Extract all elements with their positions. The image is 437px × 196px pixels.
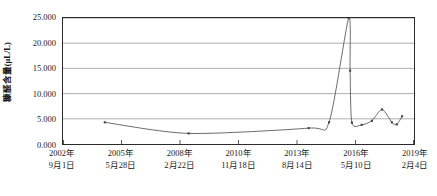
data-point-marker [381,108,383,110]
x-axis-tick-label: 2016年5月10日 [341,148,372,171]
x-axis-tick-label-year: 2008年 [164,148,195,160]
x-axis-tick-label-date: 5月10日 [341,160,372,172]
x-axis-tick-labels: 2002年9月1日2005年5月28日2008年2月22日2010年11月18日… [0,148,437,188]
data-point-marker [104,121,106,123]
x-axis-tick-label-year: 2005年 [105,148,136,160]
y-axis-tick-labels: 0.0005.00010.00015.00020.00025.000 [14,17,60,145]
x-axis-tick-label-date: 2月22日 [164,160,195,172]
x-axis-tick-label: 2005年5月28日 [105,148,136,171]
plot-area [62,17,415,145]
data-point-marker [328,121,330,123]
x-axis-tick-label: 2008年2月22日 [164,148,195,171]
data-point-marker [351,122,353,124]
data-point-marker [371,120,373,122]
x-axis-tick-label-year: 2013年 [282,148,313,160]
y-axis-tick-label: 10.000 [33,90,56,99]
y-axis-title-text: 糠醛含量(μL/L) [3,42,12,102]
plot-svg [63,18,414,144]
x-axis-tick-label-date: 9月1日 [49,160,76,172]
x-axis-tick-label-year: 2019年 [402,148,429,160]
y-axis-tick-label: 5.000 [37,115,56,124]
x-axis-tick-label: 2013年8月14日 [282,148,313,171]
y-axis-title: 糠醛含量(μL/L) [0,0,14,145]
x-axis-tick-label-year: 2016年 [341,148,372,160]
line-chart-figure: 糠醛含量(μL/L) 0.0005.00010.00015.00020.0002… [0,0,437,196]
data-point-marker [348,18,350,19]
x-axis-tick-label-year: 2002年 [49,148,76,160]
data-point-marker [188,132,190,134]
data-point-marker [391,121,393,123]
data-point-marker [396,123,398,125]
data-point-marker [401,115,403,117]
x-axis-tick-label-date: 5月28日 [105,160,136,172]
x-axis-tick-label-year: 2010年 [221,148,256,160]
x-axis-tick-label: 2002年9月1日 [49,148,76,171]
y-axis-tick-label: 20.000 [33,38,56,47]
data-point-marker [361,124,363,126]
series-line-furfural [105,18,402,133]
x-axis-tick-label-date: 11月18日 [221,160,256,172]
data-point-marker [308,127,310,129]
data-point-marker [349,70,351,72]
gridlines [63,18,414,119]
y-axis-tick-label: 15.000 [33,64,56,73]
x-axis-tick-label-date: 8月14日 [282,160,313,172]
x-axis-tick-marks [63,140,413,144]
y-axis-tick-label: 25.000 [33,13,56,22]
x-axis-tick-label: 2019年2月4日 [402,148,429,171]
x-axis-tick-label: 2010年11月18日 [221,148,256,171]
series-markers-furfural [104,18,403,134]
x-axis-tick-label-date: 2月4日 [402,160,429,172]
